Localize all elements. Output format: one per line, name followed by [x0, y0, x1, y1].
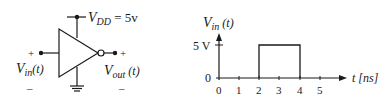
- output-minus-sign: –: [118, 82, 125, 94]
- x-axis-arrow-icon: [339, 75, 347, 81]
- x-tick-label: 1: [236, 84, 242, 96]
- vin-waveform-chart: [215, 33, 347, 81]
- y-tick-label-0: 0: [205, 71, 211, 85]
- x-tick-label: 0: [216, 84, 222, 96]
- y-tick-label-5v: 5 V: [193, 39, 211, 53]
- input-minus-sign: –: [26, 82, 33, 94]
- vout-label: Vout (t): [104, 63, 140, 80]
- chart-ylabel: Vin (t): [203, 15, 234, 32]
- inverter-triangle: [59, 29, 98, 77]
- inverter-bubble: [98, 50, 104, 56]
- vdd-label: VDD = 5v: [88, 10, 138, 27]
- ground-icon: [70, 86, 84, 91]
- x-tick-labels: 0 1 2 3 4 5: [216, 84, 323, 96]
- chart-xlabel: t [ns]: [352, 71, 379, 85]
- x-tick-label: 2: [256, 84, 262, 96]
- x-tick-label: 5: [317, 84, 323, 96]
- output-plus-sign: +: [120, 47, 126, 59]
- output-node: [113, 51, 116, 54]
- x-tick-label: 4: [297, 84, 303, 96]
- vin-label: Vin(t): [16, 61, 44, 78]
- vin-pulse-series: [259, 45, 300, 78]
- x-tick-label: 3: [276, 84, 282, 96]
- diagram-canvas: VDD = 5v + Vin(t) – + Vout (t) – Vin (t)…: [0, 0, 390, 107]
- input-plus-sign: +: [28, 47, 34, 59]
- y-axis-arrow-icon: [216, 33, 222, 41]
